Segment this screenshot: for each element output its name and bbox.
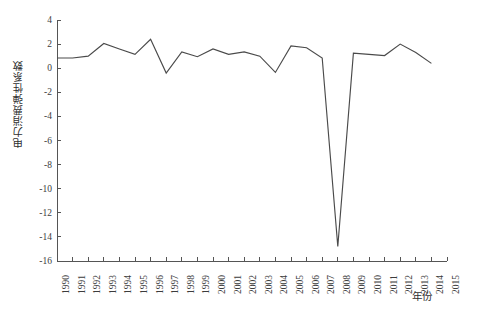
y-axis-ticks xyxy=(57,20,61,261)
data-series-line xyxy=(57,39,431,246)
x-axis-ticks xyxy=(57,257,447,261)
plot-area xyxy=(0,0,477,310)
chart-container: 电力消费弹性系数 年份 420-2-4-6-8-10-12-14-16 1990… xyxy=(0,0,477,310)
